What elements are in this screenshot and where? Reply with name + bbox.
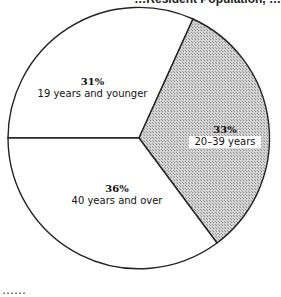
slice-category: 40 years and over xyxy=(62,195,172,207)
label-19-and-younger: 31% 19 years and younger xyxy=(35,76,150,100)
slice-category: 19 years and younger xyxy=(35,88,150,100)
label-20-39: 33% 20–39 years xyxy=(189,124,261,148)
slice-percent: 33% xyxy=(189,124,261,136)
slice-category: 20–39 years xyxy=(189,136,261,148)
slice-percent: 36% xyxy=(62,183,172,195)
clipped-caption: …… xyxy=(2,283,26,297)
label-40-and-over: 36% 40 years and over xyxy=(62,183,172,207)
slice-percent: 31% xyxy=(35,76,150,88)
